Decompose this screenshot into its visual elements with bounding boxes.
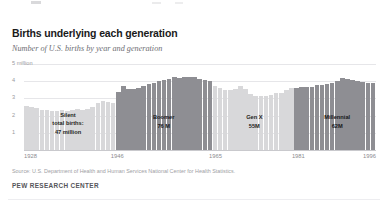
bar (228, 90, 233, 150)
bar (29, 107, 34, 150)
generation-label-line: Boomer (153, 113, 175, 121)
bar (141, 86, 146, 151)
bar (208, 81, 213, 150)
bar (121, 86, 126, 151)
bar (24, 106, 29, 150)
bar (90, 107, 95, 150)
bar (350, 80, 355, 150)
bar (233, 89, 238, 150)
bar (279, 93, 284, 150)
bar (192, 77, 197, 150)
generation-label-line: Gen X (246, 113, 262, 121)
brand-footer: PEW RESEARCH CENTER (12, 182, 99, 189)
bar (274, 93, 279, 150)
bar (223, 90, 228, 150)
bar (40, 110, 45, 150)
generation-label-line: Silent (52, 111, 83, 119)
bar (294, 88, 299, 150)
generation-label-line: 62M (324, 122, 350, 130)
bar (238, 86, 243, 150)
bar (315, 85, 320, 150)
bar (96, 103, 101, 150)
x-axis-tick-label: 1928 (24, 153, 37, 159)
generation-label-line: total births: (52, 119, 83, 127)
x-axis-tick-label: 1946 (111, 153, 124, 159)
chart-card: Births underlying each generation Number… (0, 18, 388, 199)
artifact-mark (152, 2, 161, 4)
generation-label-line: 47 million (52, 128, 83, 136)
bar (136, 88, 141, 150)
x-axis-tick-label: 1965 (209, 153, 222, 159)
chart-subtitle: Number of U.S. births by year and genera… (12, 44, 162, 53)
generation-label-boomer: Boomer76 M (153, 113, 175, 130)
bar (34, 108, 39, 150)
bar (213, 86, 218, 151)
x-axis-tick-label: 1981 (292, 153, 305, 159)
bar (310, 87, 315, 150)
bar (182, 77, 187, 150)
bar (177, 78, 182, 150)
source-note: Source: U.S. Department of Health and Hu… (12, 168, 235, 174)
capture-artifact-band (0, 0, 388, 14)
y-axis-tick-label: 4 (12, 78, 15, 84)
bar (284, 90, 289, 150)
bar (264, 96, 269, 150)
generation-label-line: Millennial (324, 113, 350, 121)
bar (126, 89, 131, 150)
x-axis-tick-label: 1996 (363, 153, 376, 159)
page-title: Births underlying each generation (12, 27, 177, 39)
bar (218, 88, 223, 150)
artifact-mark (175, 2, 183, 4)
generation-label-gen-x: Gen X55M (246, 113, 262, 130)
x-axis-line (24, 150, 376, 151)
generation-label-silent: Silenttotal births:47 million (52, 111, 83, 136)
bar (289, 88, 294, 150)
bar (360, 82, 365, 150)
screenshot-page: Births underlying each generation Number… (0, 0, 388, 214)
bar (366, 83, 371, 150)
bar (304, 87, 309, 150)
artifact-mark (31, 1, 41, 4)
bar-series (24, 64, 376, 150)
y-axis-tick-label: 2 (12, 113, 15, 119)
bar (111, 103, 116, 150)
bar (147, 84, 152, 150)
bar (355, 81, 360, 150)
generation-label-line: 76 M (153, 122, 175, 130)
generation-label-millennial: Millennial62M (324, 113, 350, 130)
bar (116, 92, 121, 150)
bar (299, 87, 304, 150)
bar (45, 110, 50, 150)
bar-chart: 12345 million 19281946196519811996 Silen… (12, 64, 376, 150)
bar (269, 95, 274, 150)
x-axis-tick-labels: 19281946196519811996 (24, 153, 376, 163)
bar (101, 101, 106, 150)
divider-bottom (8, 199, 380, 200)
bar (106, 102, 111, 150)
bar (131, 89, 136, 150)
bar (197, 79, 202, 150)
bar (187, 77, 192, 150)
bar (85, 109, 90, 150)
bar (203, 80, 208, 150)
bar (371, 83, 376, 150)
generation-label-line: 55M (246, 122, 262, 130)
y-axis-tick-label: 3 (12, 96, 15, 102)
y-axis-tick-label: 1 (12, 130, 15, 136)
